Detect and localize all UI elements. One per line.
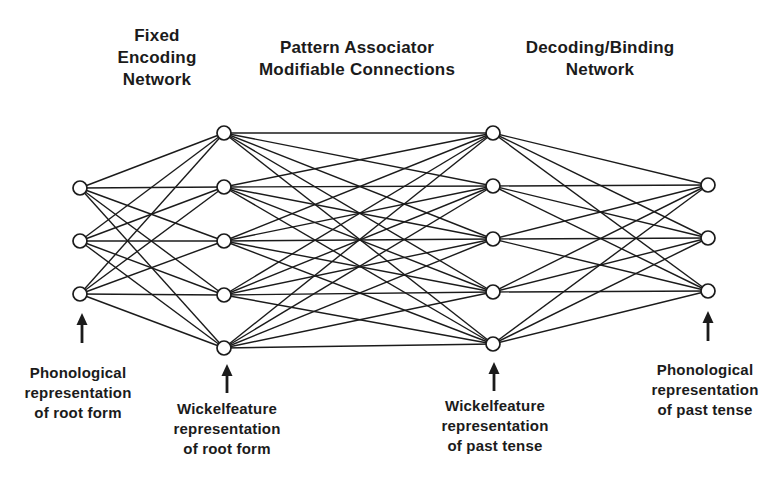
network-node-wickelfeature-input-units xyxy=(217,288,231,302)
network-node-phonological-output-units xyxy=(701,284,715,298)
up-arrow-icon xyxy=(489,362,500,391)
connection-line xyxy=(80,294,224,295)
network-node-wickelfeature-output-units xyxy=(486,126,500,140)
up-arrow-icon xyxy=(703,311,714,341)
up-arrow-head xyxy=(222,364,233,376)
label-wickelfeature-root-form: Wickelfeature representation of root for… xyxy=(174,399,281,459)
up-arrow-icon xyxy=(77,313,88,343)
network-node-phonological-input-units xyxy=(73,287,87,301)
network-node-phonological-input-units xyxy=(73,181,87,195)
network-node-phonological-output-units xyxy=(701,231,715,245)
network-node-wickelfeature-input-units xyxy=(217,341,231,355)
label-phonological-past-tense: Phonological representation of past tens… xyxy=(652,360,759,420)
connection-line xyxy=(493,133,708,185)
connection-line xyxy=(493,185,708,186)
network-node-wickelfeature-input-units xyxy=(217,126,231,140)
label-decoding-binding-network: Decoding/Binding Network xyxy=(526,37,675,81)
connection-line xyxy=(80,133,224,188)
network-node-phonological-output-units xyxy=(701,178,715,192)
label-wickelfeature-past-tense: Wickelfeature representation of past ten… xyxy=(442,396,549,456)
label-pattern-associator: Pattern Associator Modifiable Connection… xyxy=(259,37,455,81)
connection-line xyxy=(224,239,493,348)
network-node-wickelfeature-input-units xyxy=(217,234,231,248)
label-fixed-encoding-network: Fixed Encoding Network xyxy=(117,25,196,91)
network-node-wickelfeature-output-units xyxy=(486,232,500,246)
network-node-wickelfeature-output-units xyxy=(486,285,500,299)
connection-line xyxy=(224,344,493,348)
up-arrow-head xyxy=(489,362,500,374)
up-arrow-icon xyxy=(222,364,233,393)
connection-line xyxy=(80,294,224,348)
network-node-wickelfeature-output-units xyxy=(486,179,500,193)
connection-line xyxy=(80,133,224,294)
label-phonological-root-form: Phonological representation of root form xyxy=(25,363,132,423)
connection-line xyxy=(493,185,708,344)
figure-network-diagram: Fixed Encoding Network Pattern Associato… xyxy=(0,0,784,487)
network-node-wickelfeature-output-units xyxy=(486,337,500,351)
up-arrow-head xyxy=(77,313,88,325)
connection-line xyxy=(493,291,708,344)
up-arrow-head xyxy=(703,311,714,323)
network-node-phonological-input-units xyxy=(73,234,87,248)
network-node-wickelfeature-input-units xyxy=(217,180,231,194)
